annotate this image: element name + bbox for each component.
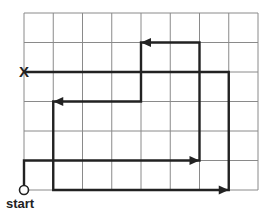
arrowhead-icon [53,97,63,106]
route-path [24,43,229,191]
route-polyline [24,43,229,191]
arrowhead-icon [219,186,229,195]
start-label: start [6,196,34,211]
arrowhead-icon [141,38,151,47]
start-circle-icon [20,186,29,195]
end-x-marker: X [19,63,29,80]
arrowhead-icon [190,156,200,165]
grid-path-diagram: X [0,0,270,216]
